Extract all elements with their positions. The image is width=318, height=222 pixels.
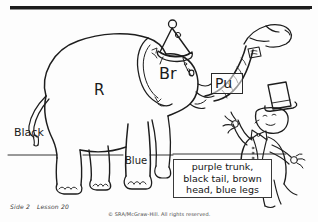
- instruction-line-3: head, blue legs: [186, 184, 259, 195]
- instruction-line-2: black tail, brown: [183, 173, 261, 184]
- color-label-pu: Pu: [215, 76, 232, 90]
- color-label-black: Black: [14, 127, 44, 138]
- color-label-blue: Blue: [125, 156, 147, 166]
- instruction-box: purple trunk, black tail, brown head, bl…: [173, 159, 272, 198]
- color-label-r: R: [94, 83, 104, 98]
- color-label-br: Br: [159, 66, 177, 82]
- instruction-text: purple trunk, black tail, brown head, bl…: [180, 161, 264, 196]
- instruction-line-1: purple trunk,: [192, 161, 254, 172]
- footer-copyright: © SRA/McGraw-Hill. All rights reserved.: [108, 211, 210, 217]
- ground-line: [8, 154, 286, 155]
- trunk-held-flag: [244, 25, 291, 58]
- worksheet-page: R Br Pu Black Blue purple trunk, black t…: [0, 0, 318, 222]
- footer-side-lesson: Side 2Lesson 20: [10, 203, 69, 210]
- footer-side: Side 2: [10, 203, 30, 210]
- footer-lesson: Lesson 20: [37, 203, 69, 210]
